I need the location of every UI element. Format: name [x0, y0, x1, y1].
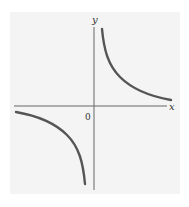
origin-label: 0 [85, 112, 91, 122]
y-axis-label: y [91, 14, 98, 25]
hyperbola-chart: y x 0 [0, 0, 189, 207]
chart-svg: y x 0 [0, 0, 189, 207]
x-axis-label: x [169, 101, 175, 112]
curve-branch-first-quadrant [102, 29, 171, 100]
curve-branch-third-quadrant [16, 112, 85, 184]
